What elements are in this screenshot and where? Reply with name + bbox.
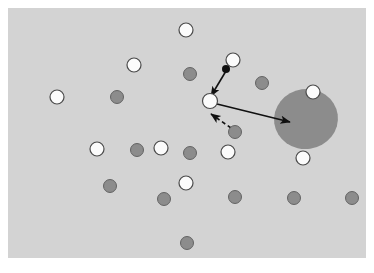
data-point-g12 xyxy=(346,192,359,205)
data-point-g5 xyxy=(131,144,144,157)
data-point-g2 xyxy=(111,91,124,104)
data-point-g1 xyxy=(184,68,197,81)
focus-dot-layer xyxy=(222,65,230,73)
data-point-d1 xyxy=(222,65,230,73)
data-point-w9 xyxy=(221,145,235,159)
figure-canvas xyxy=(0,0,374,273)
data-point-g10 xyxy=(288,192,301,205)
data-point-w3 xyxy=(127,58,141,72)
data-point-g4 xyxy=(229,126,242,139)
data-point-w4 xyxy=(50,90,64,104)
data-point-g11 xyxy=(181,237,194,250)
data-point-w8 xyxy=(154,141,168,155)
data-point-g8 xyxy=(158,193,171,206)
data-point-w6 xyxy=(306,85,320,99)
data-point-g6 xyxy=(184,147,197,160)
data-point-w1 xyxy=(179,23,193,37)
data-point-w10 xyxy=(296,151,310,165)
data-point-w11 xyxy=(179,176,193,190)
data-point-g3 xyxy=(256,77,269,90)
data-point-g9 xyxy=(229,191,242,204)
scatter-plot-svg xyxy=(0,0,374,273)
data-point-g7 xyxy=(104,180,117,193)
data-point-w2 xyxy=(226,53,240,67)
data-point-w5 xyxy=(203,94,218,109)
data-point-w7 xyxy=(90,142,104,156)
